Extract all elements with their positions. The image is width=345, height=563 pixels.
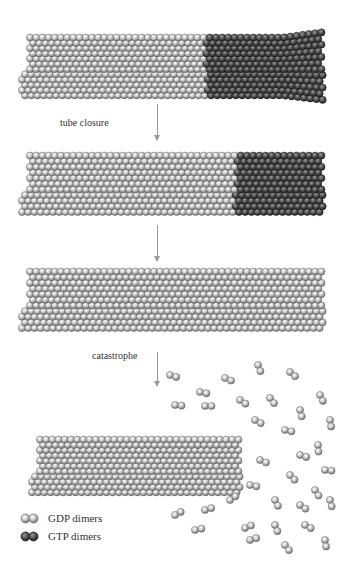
diagram-canvas: tube closure catastrophe GDP dimers GTP … [0,0,345,563]
gtp-dimer-icon [20,531,40,542]
microtubule-depolymerizing [28,436,243,496]
arrow-down-icon [157,352,158,386]
legend-label-gtp: GTP dimers [48,530,101,542]
arrow-down-icon [157,225,158,261]
arrow-down-icon [157,104,158,140]
transition-label-tube-closure: tube closure [60,117,109,128]
microtubule-no-cap [18,268,326,332]
transition-label-catastrophe: catastrophe [92,350,138,361]
gdp-dimer-icon [20,513,40,524]
microtubule-diagram [0,0,345,563]
legend-label-gdp: GDP dimers [48,512,102,524]
legend-item-gdp: GDP dimers [20,512,102,524]
microtubule-growing [18,29,326,104]
legend-item-gtp: GTP dimers [20,530,101,542]
microtubule-cap-shrinking [18,152,326,216]
